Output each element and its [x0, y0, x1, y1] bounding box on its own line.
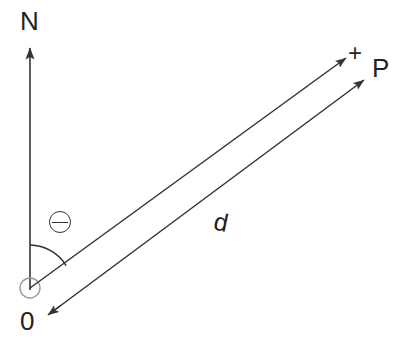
point-p-label: P — [372, 55, 389, 81]
bearing-angle-arc — [30, 245, 66, 266]
theta-circle-icon — [49, 211, 71, 233]
plus-marker-label: + — [348, 41, 362, 65]
distance-arrow-icon — [52, 80, 364, 312]
bearing-arrow-icon — [30, 58, 346, 288]
distance-arrow-tail-icon — [48, 306, 60, 315]
north-label: N — [20, 8, 39, 34]
diagram-svg — [0, 0, 405, 350]
origin-label: 0 — [20, 308, 34, 334]
diagram-canvas: N 0 + P d — [0, 0, 405, 350]
